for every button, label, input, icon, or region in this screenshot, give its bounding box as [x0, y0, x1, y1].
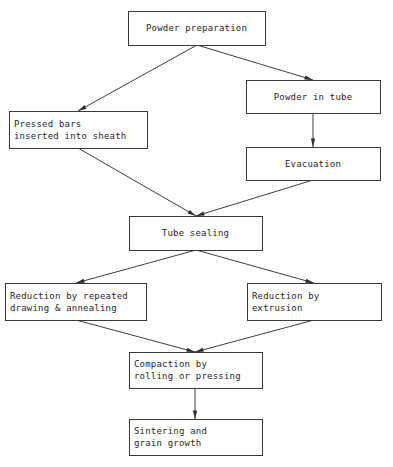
- arrowhead-reduction-extrusion-to-compaction: [195, 348, 204, 352]
- flowchart-graphics: [0, 0, 393, 467]
- node-box-powder-preparation[interactable]: [129, 12, 266, 46]
- node-box-reduction-by-extrusion[interactable]: [248, 284, 382, 321]
- arrowhead-reduction-drawing-to-compaction: [186, 348, 195, 352]
- node-box-compaction-by-rolling-or-pressing[interactable]: [130, 353, 263, 389]
- connector-powder-preparation-to-pressed-bars: [78, 45, 197, 111]
- arrowhead-powder-preparation-to-pressed-bars: [78, 105, 86, 111]
- node-box-reduction-by-repeated-drawing-annealing[interactable]: [6, 284, 147, 321]
- node-box-pressed-bars-inserted-into-sheath[interactable]: [10, 112, 148, 149]
- arrowhead-powder-preparation-to-powder-in-tube: [304, 76, 313, 80]
- node-box-evacuation[interactable]: [247, 148, 381, 181]
- arrowhead-tube-sealing-to-reduction-drawing: [76, 279, 85, 283]
- arrowhead-evacuation-to-tube-sealing: [196, 211, 205, 216]
- arrowhead-pressed-bars-to-tube-sealing: [188, 210, 196, 216]
- arrowhead-compaction-to-sintering: [193, 411, 197, 420]
- connector-tube-sealing-to-reduction-extrusion: [196, 250, 314, 283]
- arrowhead-powder-in-tube-to-evacuation: [311, 139, 315, 148]
- arrowhead-tube-sealing-to-reduction-extrusion: [305, 279, 314, 283]
- connector-pressed-bars-to-tube-sealing: [78, 148, 196, 216]
- connector-reduction-extrusion-to-compaction: [195, 320, 314, 352]
- node-layer: [6, 12, 382, 456]
- connector-tube-sealing-to-reduction-drawing: [76, 250, 196, 283]
- node-box-sintering-and-grain-growth[interactable]: [130, 420, 263, 456]
- connector-reduction-drawing-to-compaction: [76, 320, 195, 352]
- connector-evacuation-to-tube-sealing: [196, 180, 313, 216]
- node-box-tube-sealing[interactable]: [130, 217, 263, 251]
- node-box-powder-in-tube[interactable]: [247, 81, 381, 114]
- connector-powder-preparation-to-powder-in-tube: [197, 45, 313, 80]
- flowchart-canvas: Powder preparationPowder in tubePressed …: [0, 0, 393, 467]
